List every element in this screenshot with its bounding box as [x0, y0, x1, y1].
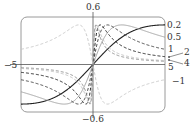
- curve-label: 2: [184, 48, 190, 57]
- arrow-head-icon: [168, 59, 170, 61]
- y-tick-top-label: 0.6: [86, 3, 100, 12]
- curve-label: 4: [184, 59, 190, 68]
- curve-label: −1: [172, 77, 185, 86]
- curve-label: 0.2: [167, 21, 181, 30]
- arrow-head-icon: [168, 56, 170, 58]
- curve-label: 5: [168, 63, 174, 72]
- x-tick-left-label: −5: [4, 61, 17, 70]
- curve-label: 0.5: [167, 33, 181, 42]
- y-tick-bottom-label: −0.6: [82, 115, 104, 124]
- curve-label: 1: [168, 45, 174, 54]
